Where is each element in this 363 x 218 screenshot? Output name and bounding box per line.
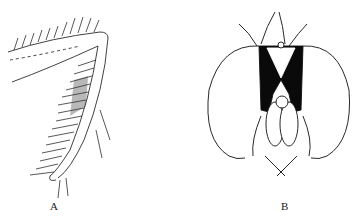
leg-drawing <box>0 0 181 218</box>
panel-label-b: B <box>281 200 288 212</box>
panel-b-head-illustration: B <box>181 0 363 218</box>
head-drawing <box>181 0 363 218</box>
panel-a-leg-illustration: A <box>0 0 181 218</box>
panel-label-a: A <box>50 200 58 212</box>
